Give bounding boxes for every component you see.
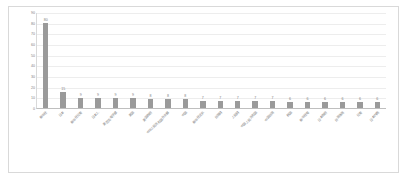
bar-slot: 80: [37, 13, 54, 108]
x-axis-label: 新华社记者: [69, 111, 82, 124]
chart-frame: 0102030405060708090 80159999888777776666…: [8, 6, 399, 173]
bar-value-label: 7: [237, 96, 239, 100]
bar-value-label: 8: [167, 94, 169, 98]
bar-slot: 9: [89, 13, 106, 108]
x-axis-label-slot: 中国: [176, 110, 194, 160]
bar-value-label: 6: [359, 97, 361, 101]
bar-value-label: 8: [184, 94, 186, 98]
bar-value-label: 8: [149, 94, 151, 98]
x-axis-label: 韩国: [286, 111, 293, 118]
bar-slot: 6: [351, 13, 368, 108]
bar-value-label: 7: [219, 96, 221, 100]
bar-slot: 8: [142, 13, 159, 108]
bar-slot: 7: [264, 13, 281, 108]
plot-area: 8015999988877777666666: [36, 13, 386, 109]
x-axis-label: 日本人: [91, 111, 100, 120]
bar[interactable]: [375, 102, 381, 108]
x-axis-label-slot: 日本: [54, 110, 72, 160]
bar[interactable]: [60, 92, 66, 108]
x-axis-label: 中国台湾: [264, 111, 275, 122]
bar[interactable]: [235, 101, 241, 108]
x-axis-label-slot: 日本人: [89, 110, 107, 160]
bar-value-label: 6: [341, 97, 343, 101]
bar[interactable]: [252, 101, 258, 108]
x-axis-label-slot: 日本内阁: [369, 110, 387, 160]
bar[interactable]: [322, 102, 328, 108]
bar-slot: 6: [369, 13, 386, 108]
y-axis-tick-70: 70: [21, 32, 35, 36]
x-axis-label: 新华社电: [299, 111, 310, 122]
x-axis-label: 日本: [58, 111, 65, 118]
bar-value-label: 9: [132, 93, 134, 97]
bar[interactable]: [113, 98, 119, 108]
y-axis: 0102030405060708090: [21, 13, 35, 109]
y-axis-tick-80: 80: [21, 22, 35, 26]
bar-slot: 9: [107, 13, 124, 108]
bar[interactable]: [287, 102, 293, 108]
bar-slot: 7: [229, 13, 246, 108]
bar-slot: 7: [246, 13, 263, 108]
x-axis-label: 日本内阁: [369, 111, 380, 122]
x-axis-label-slot: 记者: [351, 110, 369, 160]
x-axis-label-slot: 美国政府: [141, 110, 159, 160]
chart-plot-wrapper: 0102030405060708090 80159999888777776666…: [21, 13, 388, 161]
bar-slot: 9: [124, 13, 141, 108]
bar-slot: 15: [54, 13, 71, 108]
x-axis-label-slot: 中国人民共和国: [246, 110, 264, 160]
bar-value-label: 6: [324, 97, 326, 101]
x-axis-labels: 新华社日本新华社记者日本人美丽岛电子报美国美国政府中华人民共和国外交部中国新华社…: [36, 110, 386, 160]
x-axis-label-slot: 台湾网: [211, 110, 229, 160]
x-axis-label-slot: 新华社电: [299, 110, 317, 160]
bar[interactable]: [340, 102, 346, 108]
x-axis-label: 台湾网: [213, 111, 222, 120]
x-axis-label-slot: 韩国: [281, 110, 299, 160]
bar-value-label: 15: [61, 87, 65, 91]
bar-value-label: 9: [80, 93, 82, 97]
bar[interactable]: [305, 102, 311, 108]
bar[interactable]: [270, 101, 276, 108]
bar-slot: 7: [194, 13, 211, 108]
bar-value-label: 6: [376, 97, 378, 101]
x-axis-label-slot: 新华社北京: [194, 110, 212, 160]
x-axis-label-slot: 台湾当局: [334, 110, 352, 160]
bar[interactable]: [148, 99, 154, 108]
x-axis-label: 美国: [128, 111, 135, 118]
bar[interactable]: [183, 99, 189, 108]
bar-value-label: 6: [307, 97, 309, 101]
x-axis-label-slot: 新华社记者: [71, 110, 89, 160]
bar-slot: 8: [177, 13, 194, 108]
y-axis-tick-60: 60: [21, 43, 35, 47]
bar[interactable]: [218, 101, 224, 108]
bar[interactable]: [165, 99, 171, 108]
bar-slot: 6: [299, 13, 316, 108]
bar-slot: 7: [212, 13, 229, 108]
x-axis-label-slot: 美国: [124, 110, 142, 160]
bar-slot: 6: [334, 13, 351, 108]
bar[interactable]: [200, 101, 206, 108]
bar[interactable]: [130, 98, 136, 108]
bar[interactable]: [357, 102, 363, 108]
bar[interactable]: [95, 98, 101, 108]
x-axis-label: 新华社北京: [192, 111, 205, 124]
x-axis-label: 台湾当局: [334, 111, 345, 122]
bar-value-label: 7: [254, 96, 256, 100]
y-axis-tick-10: 10: [21, 96, 35, 100]
x-axis-label-slot: 新华社: [36, 110, 54, 160]
y-axis-tick-0: 0: [21, 107, 35, 111]
x-axis-label-slot: 人民网: [229, 110, 247, 160]
x-axis-label: 中国: [181, 111, 188, 118]
bar-value-label: 9: [115, 93, 117, 97]
bar[interactable]: [78, 98, 84, 108]
bar-value-label: 7: [272, 96, 274, 100]
x-axis-label-slot: 中华人民共和国外交部: [159, 110, 177, 160]
bar-slot: 8: [159, 13, 176, 108]
bar-series: 8015999988877777666666: [37, 13, 386, 108]
bar-value-label: 7: [202, 96, 204, 100]
bar-value-label: 9: [97, 93, 99, 97]
y-axis-tick-30: 30: [21, 75, 35, 79]
y-axis-tick-90: 90: [21, 11, 35, 15]
bar-value-label: 6: [289, 97, 291, 101]
y-axis-tick-40: 40: [21, 64, 35, 68]
bar[interactable]: [43, 23, 49, 108]
x-axis-label: 人民网: [231, 111, 240, 120]
